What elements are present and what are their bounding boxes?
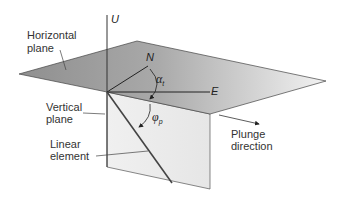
vertical-plane-leader <box>83 113 105 114</box>
east-axis-label: E <box>211 85 219 97</box>
north-axis-label: N <box>146 51 154 63</box>
plunge-direction-arrow <box>219 115 259 124</box>
vertical-plane-label: Vertical plane <box>46 101 85 125</box>
up-axis-label: U <box>111 13 119 25</box>
horizontal-plane-label: Horizontal plane <box>27 29 80 54</box>
plunge-direction-label: Plunge direction <box>231 128 273 152</box>
orientation-diagram: U N E αt φp Horizontal plane Vertical pl… <box>0 0 346 200</box>
linear-element-label: Linear element <box>50 138 89 162</box>
